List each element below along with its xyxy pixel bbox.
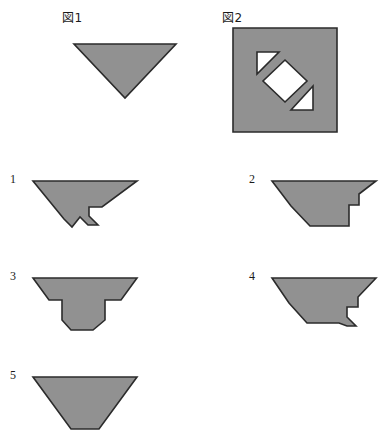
figure-2-square-with-holes xyxy=(233,28,337,132)
option-4-polygon[interactable] xyxy=(272,278,376,326)
figure-1-label: 図1 xyxy=(62,8,83,25)
figure-2-shape xyxy=(231,26,339,134)
option-1-polygon[interactable] xyxy=(33,181,137,227)
option-2-shape[interactable] xyxy=(269,178,379,238)
figure-1-triangle xyxy=(74,44,176,98)
option-2-polygon[interactable] xyxy=(272,181,376,226)
option-4-shape[interactable] xyxy=(269,275,379,335)
worksheet-page: 図1 図2 1 2 3 4 5 xyxy=(0,0,389,437)
option-1-number: 1 xyxy=(10,172,16,187)
option-3-polygon[interactable] xyxy=(33,278,137,330)
option-5-polygon[interactable] xyxy=(33,377,137,429)
option-3-number: 3 xyxy=(10,269,16,284)
option-1-shape[interactable] xyxy=(30,178,140,238)
option-2-number: 2 xyxy=(249,172,255,187)
option-5-number: 5 xyxy=(10,368,16,383)
option-5-shape[interactable] xyxy=(30,374,140,434)
figure-1-shape xyxy=(72,42,178,100)
option-4-number: 4 xyxy=(249,269,255,284)
option-3-shape[interactable] xyxy=(30,275,140,335)
figure-2-label: 図2 xyxy=(222,8,243,25)
